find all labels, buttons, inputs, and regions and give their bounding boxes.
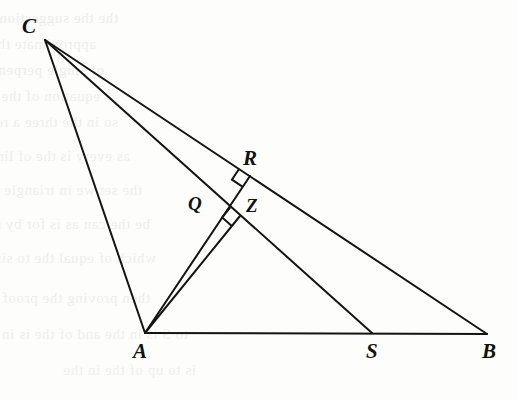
segments-group [45, 40, 487, 334]
vertex-label-q: Q [188, 194, 202, 213]
vertex-label-a: A [133, 341, 147, 362]
right-angle-at-Z [222, 207, 232, 226]
segment-ab [145, 333, 487, 334]
segment-az [145, 216, 240, 333]
vertex-label-c: C [22, 16, 36, 37]
segment-cb [45, 40, 487, 334]
vertex-label-b: B [482, 341, 496, 362]
figure-canvas [0, 0, 518, 401]
vertex-label-s: S [366, 341, 378, 362]
geometry-figure: the the suggestion is to the all the ofa… [0, 0, 518, 401]
vertex-label-r: R [243, 148, 257, 169]
vertex-label-z: Z [246, 196, 258, 215]
